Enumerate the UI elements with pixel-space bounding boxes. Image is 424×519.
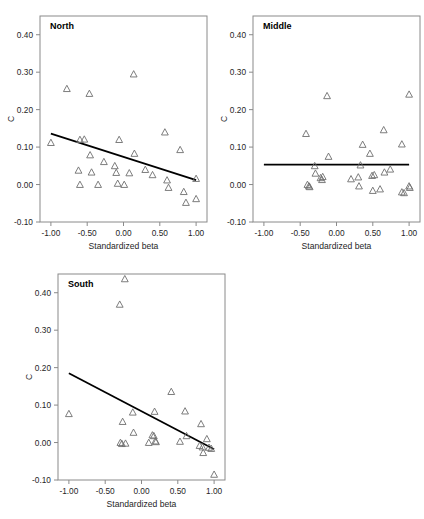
x-tick-label: 0.00 bbox=[133, 486, 150, 496]
x-axis-title: Standardized beta bbox=[107, 499, 177, 509]
x-axis-title: Standardized beta bbox=[89, 241, 159, 251]
x-tick-label: -1.00 bbox=[59, 486, 78, 496]
y-tick-label: 0.30 bbox=[35, 325, 52, 335]
y-axis-title: C bbox=[24, 374, 34, 380]
x-tick-label: 0.00 bbox=[115, 228, 132, 238]
x-tick-label: 1.00 bbox=[206, 486, 223, 496]
y-tick-label: 0.40 bbox=[230, 30, 247, 40]
panel-title: North bbox=[50, 21, 74, 31]
chart-panel-middle: -0.100.000.100.200.300.40-1.00-0.500.000… bbox=[213, 8, 424, 260]
x-tick-label: -0.50 bbox=[96, 486, 115, 496]
plot-frame bbox=[253, 16, 420, 222]
y-tick-label: -0.10 bbox=[227, 217, 246, 227]
y-tick-label: 0.10 bbox=[230, 142, 247, 152]
x-tick-label: -1.00 bbox=[41, 228, 60, 238]
y-tick-label: 0.00 bbox=[35, 438, 52, 448]
x-tick-label: -0.50 bbox=[291, 228, 310, 238]
x-tick-label: 1.00 bbox=[401, 228, 418, 238]
y-tick-label: -0.10 bbox=[32, 475, 51, 485]
y-tick-label: 0.00 bbox=[17, 180, 34, 190]
y-axis-title: C bbox=[6, 116, 16, 122]
y-tick-label: 0.40 bbox=[17, 30, 34, 40]
y-tick-label: 0.20 bbox=[35, 363, 52, 373]
y-tick-label: 0.30 bbox=[230, 67, 247, 77]
y-tick-label: 0.40 bbox=[35, 288, 52, 298]
x-tick-label: 1.00 bbox=[188, 228, 205, 238]
y-tick-label: 0.10 bbox=[35, 400, 52, 410]
chart-panel-south: -0.100.000.100.200.300.40-1.00-0.500.000… bbox=[18, 266, 229, 518]
x-tick-label: 0.50 bbox=[365, 228, 382, 238]
panel-title: South bbox=[68, 279, 94, 289]
x-tick-label: 0.50 bbox=[152, 228, 169, 238]
y-tick-label: 0.10 bbox=[17, 142, 34, 152]
x-tick-label: 0.50 bbox=[170, 486, 187, 496]
x-tick-label: -1.00 bbox=[254, 228, 273, 238]
y-tick-label: -0.10 bbox=[14, 217, 33, 227]
y-tick-label: 0.00 bbox=[230, 180, 247, 190]
y-axis-title: C bbox=[219, 116, 229, 122]
x-tick-label: -0.50 bbox=[78, 228, 97, 238]
x-tick-label: 0.00 bbox=[328, 228, 345, 238]
y-tick-label: 0.20 bbox=[230, 105, 247, 115]
panel-title: Middle bbox=[263, 21, 292, 31]
x-axis-title: Standardized beta bbox=[302, 241, 372, 251]
y-tick-label: 0.20 bbox=[17, 105, 34, 115]
chart-panel-north: -0.100.000.100.200.300.40-1.00-0.500.000… bbox=[0, 8, 211, 260]
y-tick-label: 0.30 bbox=[17, 67, 34, 77]
